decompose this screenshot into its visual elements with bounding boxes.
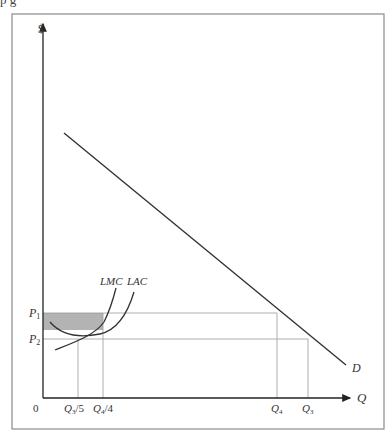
figure-frame xyxy=(12,14,384,429)
diagram-canvas: $ Q 0 P1 P2 Q3/5 Q4/4 Q4 Q3 LMC LAC D xyxy=(0,0,390,436)
p2-label: P2 xyxy=(28,332,40,347)
q3-label: Q3 xyxy=(302,402,314,416)
demand-label: D xyxy=(351,361,361,375)
q3-fifth-label: Q3/5 xyxy=(64,402,85,416)
p1-label: P1 xyxy=(28,306,40,321)
origin-label: 0 xyxy=(33,402,39,414)
demand-curve xyxy=(64,133,346,365)
q4-quarter-label: Q4/4 xyxy=(93,402,114,416)
x-axis-label: Q xyxy=(357,390,367,405)
q4-label: Q4 xyxy=(271,402,283,416)
lac-label: LAC xyxy=(126,275,148,287)
profit-area xyxy=(43,313,103,330)
y-axis-label: $ xyxy=(38,22,44,36)
lmc-label: LMC xyxy=(99,275,123,287)
